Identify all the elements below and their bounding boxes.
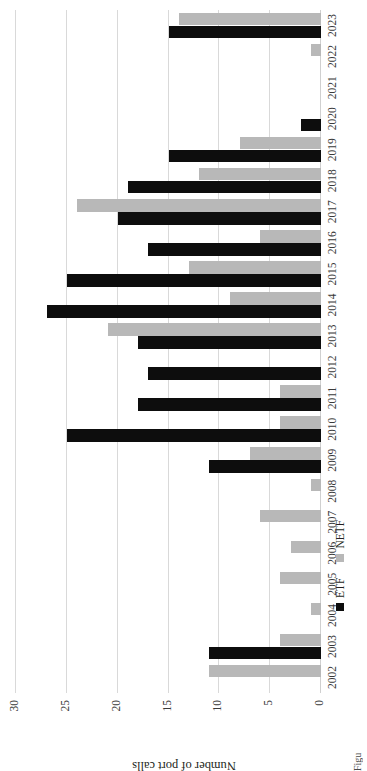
bar-group: 2016: [16, 227, 321, 258]
bar-netf-2023: [179, 13, 321, 25]
x-tick-label: 2008: [327, 480, 339, 503]
bar-group: 2014: [16, 289, 321, 320]
bar-etf-2014: [47, 305, 322, 317]
bar-etf-2018: [128, 181, 321, 193]
bar-group: 2017: [16, 196, 321, 227]
bar-etf-2015: [67, 274, 321, 286]
bar-netf-2014: [230, 292, 322, 304]
legend-entry-netf: NETF: [334, 520, 346, 562]
x-tick-label: 2018: [327, 169, 339, 192]
bar-netf-2017: [77, 199, 321, 211]
bar-etf-2023: [169, 26, 322, 38]
bar-netf-2003: [280, 634, 321, 646]
bar-netf-2002: [209, 665, 321, 677]
x-tick-label: 2016: [327, 231, 339, 254]
bar-netf-2013: [108, 323, 322, 335]
y-tick-label: 5: [263, 700, 275, 706]
bar-group: 2008: [16, 476, 321, 507]
x-tick-label: 2015: [327, 262, 339, 285]
x-tick-label: 2019: [327, 138, 339, 161]
bar-group: 2023: [16, 10, 321, 41]
bar-group: 2013: [16, 320, 321, 351]
bar-group: 2015: [16, 258, 321, 289]
bar-etf-2013: [138, 336, 321, 348]
legend-label-etf: ETF: [334, 578, 346, 598]
legend-swatch-icon-netf: [336, 554, 344, 562]
bar-etf-2010: [67, 429, 321, 441]
y-tick-label: 10: [213, 700, 225, 712]
bar-etf-2012: [148, 367, 321, 379]
y-tick-label: 0: [314, 700, 326, 706]
bar-netf-2009: [250, 447, 321, 459]
bar-netf-2010: [280, 416, 321, 428]
bar-netf-2008: [311, 479, 321, 491]
x-tick-label: 2012: [327, 356, 339, 379]
bar-group: 2007: [16, 507, 321, 538]
bar-netf-2016: [260, 230, 321, 242]
bar-group: 2020: [16, 103, 321, 134]
bar-etf-2011: [138, 398, 321, 410]
x-tick-label: 2009: [327, 449, 339, 472]
bar-group: 2005: [16, 569, 321, 600]
x-tick-label: 2022: [327, 45, 339, 68]
bar-netf-2022: [311, 44, 321, 56]
x-tick-label: 2014: [327, 293, 339, 316]
bar-etf-2019: [169, 150, 322, 162]
bar-netf-2007: [260, 510, 321, 522]
bar-netf-2011: [280, 385, 321, 397]
bar-netf-2005: [280, 572, 321, 584]
bar-group: 2009: [16, 445, 321, 476]
x-tick-label: 2002: [327, 666, 339, 689]
chart-area: Number of port calls 0510152025302002200…: [0, 0, 367, 771]
bar-group: 2019: [16, 134, 321, 165]
x-tick-label: 2011: [327, 387, 339, 410]
bar-netf-2006: [291, 541, 322, 553]
bar-group: 2021: [16, 72, 321, 103]
bar-group: 2006: [16, 538, 321, 569]
bar-etf-2017: [118, 212, 321, 224]
bar-group: 2003: [16, 631, 321, 662]
bar-group: 2012: [16, 352, 321, 383]
bar-etf-2016: [148, 243, 321, 255]
bar-group: 2022: [16, 41, 321, 72]
x-tick-label: 2023: [327, 14, 339, 37]
y-tick-label: 20: [111, 700, 123, 712]
bar-netf-2018: [199, 168, 321, 180]
bar-group: 2011: [16, 383, 321, 414]
y-axis-title: Number of port calls: [132, 758, 236, 771]
x-tick-label: 2013: [327, 324, 339, 347]
plot-area: 0510152025302002200320042005200620072008…: [16, 10, 321, 693]
x-tick-label: 2010: [327, 418, 339, 441]
bar-netf-2004: [311, 603, 321, 615]
y-tick-label: 25: [60, 700, 72, 712]
bar-group: 2010: [16, 414, 321, 445]
chart-legend: ETF NETF: [334, 520, 346, 611]
bar-netf-2015: [189, 261, 321, 273]
bar-netf-2019: [240, 137, 321, 149]
y-tick-label: 15: [162, 700, 174, 712]
bar-etf-2003: [209, 647, 321, 659]
legend-swatch-icon-etf: [336, 603, 344, 611]
y-tick-label: 30: [9, 700, 21, 712]
legend-label-netf: NETF: [334, 520, 346, 549]
bar-etf-2020: [301, 119, 321, 131]
bar-group: 2018: [16, 165, 321, 196]
bar-group: 2002: [16, 662, 321, 693]
rotated-chart-canvas: Number of port calls 0510152025302002200…: [0, 0, 367, 771]
figure-frame: Number of port calls 0510152025302002200…: [0, 0, 367, 771]
figure-caption: Figure 2. Annual Port Calls 2002-2023: [352, 753, 363, 771]
x-tick-label: 2021: [327, 76, 339, 99]
x-tick-label: 2003: [327, 635, 339, 658]
bar-etf-2009: [209, 461, 321, 473]
legend-entry-etf: ETF: [334, 578, 346, 611]
bar-group: 2004: [16, 600, 321, 631]
x-tick-label: 2020: [327, 107, 339, 130]
x-tick-label: 2017: [327, 200, 339, 223]
